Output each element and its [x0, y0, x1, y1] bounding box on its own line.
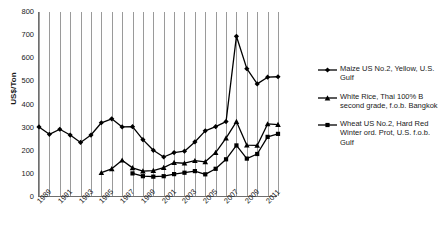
y-axis-tick-label: 600: [8, 54, 34, 62]
chart-legend: Maize US No.2, Yellow, U.S. GulfWhite Ri…: [318, 64, 440, 156]
square-marker-icon: [193, 169, 197, 173]
square-marker-icon: [203, 172, 207, 176]
square-marker-icon: [172, 172, 176, 176]
price-line-chart: US$/Ton 8007006005004003002001000 198919…: [0, 0, 440, 238]
square-marker-icon: [325, 123, 329, 127]
square-marker-icon: [255, 152, 259, 156]
square-marker-icon: [162, 174, 166, 178]
legend-entry: Wheat US No.2, Hard Red Winter ord. Prot…: [318, 119, 440, 147]
diamond-marker-icon: [213, 124, 218, 129]
triangle-marker-icon: [161, 165, 167, 170]
plot-area: [38, 12, 277, 197]
diamond-marker-icon: [325, 67, 330, 72]
square-marker-icon: [141, 174, 145, 178]
square-marker-icon: [276, 132, 280, 136]
square-marker-icon: [130, 171, 134, 175]
diamond-marker-icon: [171, 150, 176, 155]
legend-label: White Rice, Thai 100% B second grade, f.…: [340, 92, 440, 111]
triangle-marker-icon: [318, 94, 337, 102]
square-marker-icon: [224, 157, 228, 161]
y-axis-tick-label: 100: [8, 170, 34, 178]
y-axis-tick-labels: 8007006005004003002001000: [4, 0, 34, 238]
triangle-marker-icon: [234, 119, 240, 124]
y-axis-tick-label: 500: [8, 77, 34, 85]
square-marker-icon: [245, 157, 249, 161]
square-marker-icon: [318, 121, 337, 129]
series-line-0: [39, 36, 278, 157]
square-marker-icon: [266, 135, 270, 139]
diamond-marker-icon: [57, 127, 62, 132]
x-axis-tick-labels: 1989199119931995199719992001200320052007…: [38, 197, 277, 238]
series-layer: [39, 12, 278, 197]
y-axis-tick-label: 700: [8, 31, 34, 39]
square-marker-icon: [182, 171, 186, 175]
diamond-marker-icon: [275, 74, 280, 79]
y-axis-tick-label: 200: [8, 147, 34, 155]
diamond-marker-icon: [318, 66, 337, 74]
square-marker-icon: [214, 167, 218, 171]
square-marker-icon: [234, 143, 238, 147]
legend-label: Maize US No.2, Yellow, U.S. Gulf: [340, 64, 440, 83]
legend-entry: White Rice, Thai 100% B second grade, f.…: [318, 92, 440, 111]
y-axis-tick-label: 0: [8, 193, 34, 201]
diamond-marker-icon: [223, 119, 228, 124]
triangle-marker-icon: [119, 157, 125, 162]
gridline: [278, 12, 279, 196]
square-marker-icon: [151, 175, 155, 179]
y-axis-tick-label: 300: [8, 124, 34, 132]
legend-entry: Maize US No.2, Yellow, U.S. Gulf: [318, 64, 440, 83]
y-axis-tick-label: 800: [8, 8, 34, 16]
y-axis-tick-label: 400: [8, 101, 34, 109]
diamond-marker-icon: [234, 34, 239, 39]
legend-label: Wheat US No.2, Hard Red Winter ord. Prot…: [340, 119, 440, 147]
